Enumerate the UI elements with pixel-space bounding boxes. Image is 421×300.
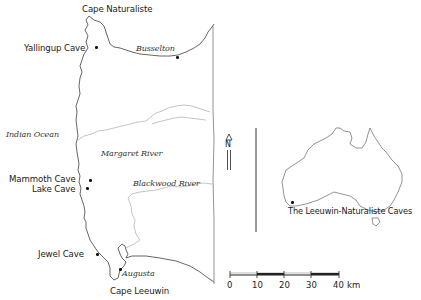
yallingup-cave-marker (95, 46, 98, 49)
cape-leeuwin-label: Cape Leeuwin (110, 287, 169, 296)
scale-tick-0: 0 (227, 281, 232, 290)
indian-ocean-label: Indian Ocean (6, 131, 59, 139)
yallingup-cave-label: Yallingup Cave (24, 44, 85, 53)
mammoth-cave-label: Mammoth Cave (9, 175, 76, 184)
lake-cave-marker (86, 187, 89, 190)
mammoth-cave-marker (89, 179, 92, 182)
australia-outline (282, 128, 402, 212)
blackwood-river-label: Blackwood River (133, 180, 200, 188)
scale-bar (230, 271, 339, 278)
lake-cave-label: Lake Cave (32, 185, 75, 194)
margaret-river-branch (152, 117, 206, 124)
north-label: N (225, 141, 231, 149)
cape-naturaliste-label: Cape Naturaliste (82, 5, 152, 14)
jewel-cave-label: Jewel Cave (38, 250, 84, 259)
map-boundary (213, 26, 214, 284)
scale-tick-30: 30 (306, 281, 317, 290)
margaret-river (78, 105, 210, 140)
busselton-label: Busselton (136, 45, 175, 53)
augusta-label: Augusta (122, 270, 155, 278)
scale-tick-10: 10 (252, 281, 263, 290)
tasmania-outline (372, 218, 380, 226)
busselton-marker (176, 56, 179, 59)
margaret-river-label: Margaret River (101, 150, 162, 158)
scale-unit: km (347, 281, 360, 290)
scale-tick-40: 40 (333, 281, 344, 290)
scale-tick-20: 20 (279, 281, 290, 290)
inset-title: The Leeuwin-Naturaliste Caves (288, 207, 412, 215)
jewel-cave-marker (96, 253, 99, 256)
blackwood-river (126, 183, 212, 248)
inset-location-marker (291, 201, 294, 204)
